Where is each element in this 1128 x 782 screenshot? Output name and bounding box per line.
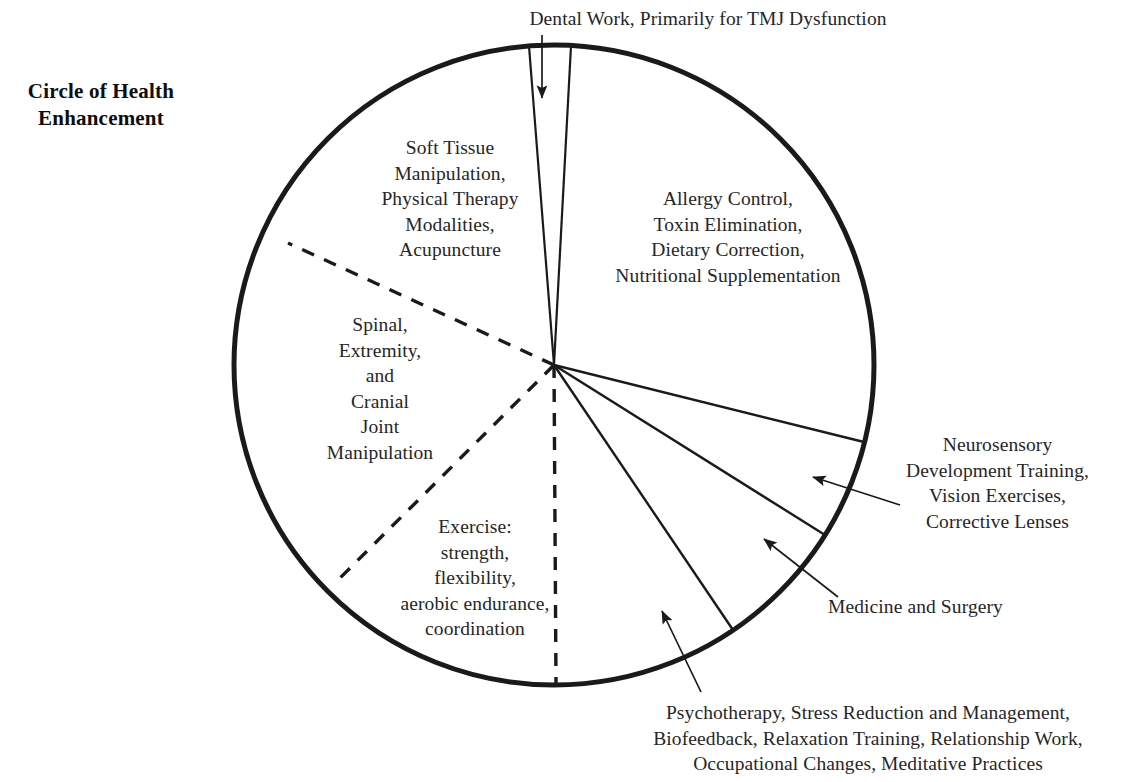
divider-medicine-psychotherapy — [554, 365, 733, 630]
segment-label-soft-tissue: Soft Tissue Manipulation, Physical Thera… — [335, 135, 565, 263]
circle-of-health-diagram: Circle of Health Enhancement Dental Work… — [0, 0, 1128, 782]
divider-neurosensory-medicine — [554, 365, 825, 535]
segment-label-dental-work: Dental Work, Primarily for TMJ Dysfuncti… — [468, 6, 948, 32]
segment-label-psychotherapy: Psychotherapy, Stress Reduction and Mana… — [618, 700, 1118, 777]
leader-arrow-medicine — [764, 539, 838, 597]
segment-label-spinal: Spinal, Extremity, and Cranial Joint Man… — [285, 312, 475, 465]
page-title: Circle of Health Enhancement — [6, 78, 196, 132]
leader-arrow-neurosensory — [813, 477, 900, 505]
segment-label-allergy-nutrition: Allergy Control, Toxin Elimination, Diet… — [588, 186, 868, 288]
segment-label-neurosensory: Neurosensory Development Training, Visio… — [890, 432, 1105, 534]
segment-label-exercise: Exercise: strength, flexibility, aerobic… — [375, 514, 575, 642]
segment-label-medicine-surgery: Medicine and Surgery — [828, 594, 1058, 620]
divider-allergy-neurosensory — [554, 365, 864, 442]
